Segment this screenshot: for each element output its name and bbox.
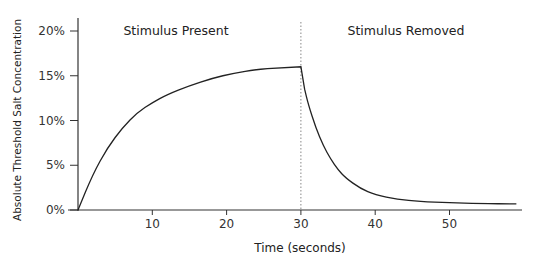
x-tick-label: 30 bbox=[293, 217, 308, 231]
x-axis-title: Time (seconds) bbox=[253, 241, 346, 255]
x-tick-label: 50 bbox=[442, 217, 457, 231]
annotation-stimulus-removed: Stimulus Removed bbox=[348, 23, 465, 38]
y-tick-label: 20% bbox=[38, 24, 65, 38]
annotation-stimulus-present: Stimulus Present bbox=[123, 23, 228, 38]
line-chart: 0%5%10%15%20% 1020304050 Stimulus Presen… bbox=[0, 0, 533, 269]
y-tick-label: 10% bbox=[38, 114, 65, 128]
y-tick-label: 0% bbox=[46, 203, 65, 217]
y-axis-title: Absolute Threshold Salt Concentration bbox=[11, 19, 23, 221]
x-tick-label: 20 bbox=[219, 217, 234, 231]
x-tick-label: 10 bbox=[145, 217, 160, 231]
y-axis-ticks: 0%5%10%15%20% bbox=[38, 24, 78, 217]
x-axis-ticks: 1020304050 bbox=[145, 210, 457, 231]
threshold-curve bbox=[78, 67, 516, 210]
y-tick-label: 5% bbox=[46, 158, 65, 172]
y-tick-label: 15% bbox=[38, 69, 65, 83]
x-tick-label: 40 bbox=[368, 217, 383, 231]
